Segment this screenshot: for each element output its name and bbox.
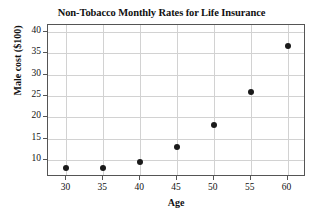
data-point (100, 165, 106, 171)
x-axis-tick (102, 176, 103, 180)
gridline-horizontal (48, 160, 304, 161)
gridline-vertical (214, 25, 215, 175)
y-axis-tick (43, 31, 47, 32)
y-axis-tick (43, 116, 47, 117)
x-axis-tick (65, 176, 66, 180)
x-axis-tick-label: 35 (87, 182, 117, 192)
y-axis-tick-label: 15 (0, 132, 41, 142)
y-axis-tick-label: 10 (0, 153, 41, 163)
x-axis-tick (287, 176, 288, 180)
x-axis-label: Age (47, 197, 305, 208)
y-axis-tick (43, 95, 47, 96)
x-axis-tick (213, 176, 214, 180)
data-point (174, 144, 180, 150)
chart-title: Non-Tobacco Monthly Rates for Life Insur… (0, 7, 323, 18)
x-axis-tick-label: 45 (161, 182, 191, 192)
x-axis-tick-label: 55 (235, 182, 265, 192)
data-point (137, 159, 143, 165)
gridline-horizontal (48, 32, 304, 33)
y-axis-tick-label: 20 (0, 110, 41, 120)
x-axis-tick (250, 176, 251, 180)
gridline-horizontal (48, 53, 304, 54)
gridline-horizontal (48, 117, 304, 118)
gridline-vertical (140, 25, 141, 175)
gridline-vertical (103, 25, 104, 175)
data-point (248, 89, 254, 95)
scatter-plot-figure: Non-Tobacco Monthly Rates for Life Insur… (0, 0, 323, 219)
plot-area (47, 24, 305, 176)
y-axis-tick (43, 74, 47, 75)
gridline-horizontal (48, 139, 304, 140)
gridline-vertical (66, 25, 67, 175)
y-axis-tick (43, 52, 47, 53)
data-point (285, 43, 291, 49)
y-axis-tick (43, 159, 47, 160)
x-axis-tick-label: 40 (124, 182, 154, 192)
x-axis-tick-label: 30 (50, 182, 80, 192)
gridline-horizontal (48, 96, 304, 97)
x-axis-tick-label: 50 (198, 182, 228, 192)
data-point (211, 122, 217, 128)
gridline-vertical (177, 25, 178, 175)
y-axis-tick (43, 138, 47, 139)
gridline-vertical (251, 25, 252, 175)
y-axis-tick-label: 35 (0, 46, 41, 56)
data-point (63, 165, 69, 171)
y-axis-tick-label: 30 (0, 68, 41, 78)
y-axis-tick-label: 25 (0, 89, 41, 99)
y-axis-tick-label: 40 (0, 25, 41, 35)
gridline-horizontal (48, 75, 304, 76)
x-axis-tick-label: 60 (272, 182, 302, 192)
x-axis-tick (176, 176, 177, 180)
x-axis-tick (139, 176, 140, 180)
